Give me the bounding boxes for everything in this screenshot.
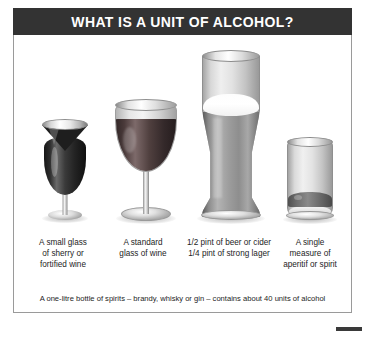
- pint-glass-base: [201, 210, 261, 220]
- glass-illustration-stage: [14, 35, 351, 235]
- caption-spirit-line-3: aperitif or spirit: [272, 259, 348, 270]
- spirit-liquid-fill: [288, 192, 332, 207]
- tumbler-glass-body: [287, 142, 333, 216]
- wine-glass-rim: [115, 99, 177, 111]
- sherry-glass-illustration: [32, 35, 98, 235]
- alcohol-unit-infographic: WHAT IS A UNIT OF ALCOHOL?: [13, 8, 352, 313]
- caption-beer: 1/2 pint of beer or cider 1/4 pint of st…: [176, 237, 282, 259]
- caption-sherry: A small glass of sherry or fortified win…: [20, 237, 106, 270]
- wine-glass-bowl: [115, 105, 177, 172]
- sherry-glass-rim: [42, 119, 88, 130]
- caption-spirit: A single measure of aperitif or spirit: [272, 237, 348, 270]
- wine-glass-illustration: [107, 35, 185, 235]
- beer-liquid-fill: [203, 112, 259, 217]
- tumbler-glass-rim: [287, 137, 333, 147]
- caption-spirit-line-1: A single: [272, 237, 348, 248]
- bottom-bar-artifact: [336, 327, 362, 331]
- infographic-panel: A small glass of sherry or fortified win…: [13, 35, 352, 313]
- footnote-text: A one-litre bottle of spirits – brandy, …: [14, 293, 351, 304]
- infographic-title-bar: WHAT IS A UNIT OF ALCOHOL?: [13, 8, 352, 35]
- tumbler-glass-illustration: [276, 35, 344, 235]
- caption-sherry-line-2: of sherry or: [20, 248, 106, 259]
- pint-glass-body: [202, 56, 260, 217]
- caption-spirit-line-2: measure of: [272, 248, 348, 259]
- caption-row: A small glass of sherry or fortified win…: [14, 237, 351, 285]
- caption-beer-line-2: 1/4 pint of strong lager: [176, 248, 282, 259]
- pint-glass-rim: [202, 50, 260, 62]
- pint-glass-illustration: [186, 35, 276, 235]
- tumbler-glass-base: [286, 211, 334, 220]
- caption-sherry-line-3: fortified wine: [20, 259, 106, 270]
- caption-wine-line-2: glass of wine: [100, 248, 186, 259]
- page-title: WHAT IS A UNIT OF ALCOHOL?: [71, 15, 293, 29]
- caption-wine-line-1: A standard: [100, 237, 186, 248]
- caption-wine: A standard glass of wine: [100, 237, 186, 259]
- beer-foam-head: [203, 94, 259, 116]
- caption-sherry-line-1: A small glass: [20, 237, 106, 248]
- wine-liquid-fill: [115, 119, 177, 172]
- caption-beer-line-1: 1/2 pint of beer or cider: [176, 237, 282, 248]
- wine-glass-stem: [143, 170, 149, 214]
